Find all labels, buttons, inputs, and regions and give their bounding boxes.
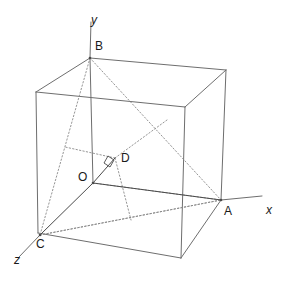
cube-solid-edges bbox=[36, 58, 226, 258]
cube-edge bbox=[181, 107, 185, 258]
point-label-o: O bbox=[78, 171, 87, 183]
point-label-d: D bbox=[121, 152, 130, 164]
perpendicular-segments bbox=[40, 158, 221, 235]
vertex-dot-b bbox=[89, 57, 92, 60]
cube-edge bbox=[36, 92, 38, 233]
point-label-a: A bbox=[224, 205, 232, 217]
cube-edge bbox=[221, 70, 226, 200]
cube-edge bbox=[36, 58, 90, 92]
vertex-dot-a bbox=[220, 199, 223, 202]
point-label-b: B bbox=[95, 40, 103, 52]
axis-label-y: y bbox=[91, 14, 97, 26]
cube-edge bbox=[38, 233, 181, 258]
construction-D-to-CA-foot bbox=[115, 158, 131, 220]
geometry-figure: x y z A B C D O bbox=[0, 0, 287, 281]
axis-label-z: z bbox=[14, 254, 20, 266]
triangle-edge-CA bbox=[40, 200, 221, 235]
cube-edge bbox=[90, 58, 226, 70]
cube-edge bbox=[181, 200, 221, 258]
axis-x bbox=[221, 196, 262, 200]
OD-perpendicular bbox=[93, 158, 115, 183]
axis-y bbox=[90, 22, 91, 58]
cube-edge bbox=[36, 92, 185, 107]
axis-label-x: x bbox=[266, 204, 272, 216]
vertex-dot-o bbox=[92, 182, 95, 185]
point-label-c: C bbox=[36, 238, 45, 250]
OA bbox=[93, 183, 221, 200]
OC bbox=[40, 183, 93, 235]
vertex-dot-c bbox=[39, 234, 42, 237]
cube-edge bbox=[185, 70, 226, 107]
triangle-edge-BA bbox=[90, 58, 221, 200]
cube-edge bbox=[90, 58, 93, 183]
